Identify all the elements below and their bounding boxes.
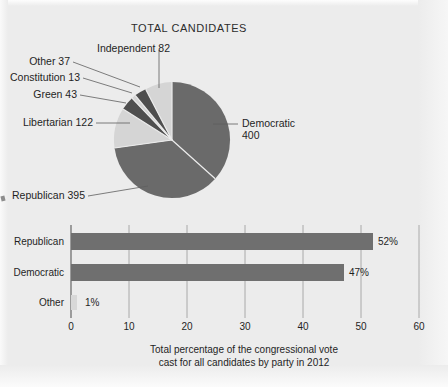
x-tick-20: 20 — [176, 321, 198, 332]
x-tick-40: 40 — [292, 321, 314, 332]
bar-category-republican: Republican — [0, 236, 64, 247]
x-tick-50: 50 — [350, 321, 372, 332]
bar-value-republican: 52% — [378, 236, 398, 247]
x-tick-60: 60 — [408, 321, 430, 332]
bar-category-democratic: Democratic — [0, 267, 64, 278]
caption-line-2: cast for all candidates by party in 2012 — [159, 357, 330, 368]
x-tick-0: 0 — [60, 321, 82, 332]
caption-line-1: Total percentage of the congressional vo… — [150, 344, 338, 355]
bar-democratic — [71, 264, 344, 281]
figure-canvas: TOTAL CANDIDATES — [0, 0, 448, 387]
bar-value-democratic: 47% — [349, 267, 369, 278]
bar-republican — [71, 233, 373, 250]
x-tick-10: 10 — [118, 321, 140, 332]
bar-value-other: 1% — [85, 297, 99, 308]
bar-chart-caption: Total percentage of the congressional vo… — [114, 343, 374, 369]
bar-other — [71, 295, 77, 310]
x-tick-30: 30 — [234, 321, 256, 332]
bar-category-other: Other — [0, 297, 64, 308]
